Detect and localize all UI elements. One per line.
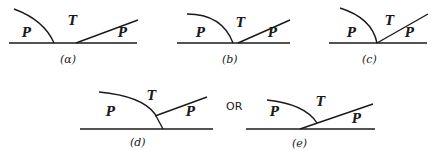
region-label-left-d: P — [105, 105, 116, 119]
right-boundary-line-d — [155, 97, 207, 116]
panel-e: P T P (e) — [246, 95, 375, 150]
or-connector: OR — [226, 100, 243, 113]
region-label-middle-c: T — [385, 14, 395, 28]
left-boundary-curve-b — [187, 14, 233, 43]
right-boundary-line-a — [76, 20, 138, 43]
phase-boundary-diagram: P T P (α) P T P (b) P T P (c) P T P (d) … — [0, 0, 435, 150]
region-label-left-a: P — [21, 26, 32, 40]
region-label-right-b: P — [267, 26, 278, 40]
region-label-left-b: P — [195, 26, 206, 40]
region-label-right-c: P — [404, 26, 415, 40]
region-label-middle-a: T — [68, 14, 78, 28]
region-label-middle-d: T — [147, 89, 157, 103]
caption-b: (b) — [222, 53, 238, 66]
panel-c: P T P (c) — [329, 8, 428, 66]
right-boundary-line-b — [238, 20, 290, 43]
region-label-left-e: P — [269, 105, 280, 119]
caption-e: (e) — [292, 137, 307, 150]
region-label-middle-e: T — [316, 95, 326, 109]
region-label-middle-b: T — [236, 16, 246, 30]
panel-b: P T P (b) — [177, 14, 290, 66]
caption-c: (c) — [362, 53, 377, 66]
region-label-right-a: P — [117, 26, 128, 40]
left-boundary-curve-a — [14, 9, 54, 43]
region-label-left-c: P — [346, 26, 357, 40]
region-label-right-d: P — [185, 105, 196, 119]
region-label-right-e: P — [351, 112, 362, 126]
left-boundary-curve-c — [340, 8, 377, 43]
panel-d: P T P (d) — [80, 89, 213, 149]
caption-a: (α) — [60, 53, 76, 66]
caption-d: (d) — [130, 136, 146, 149]
panel-a: P T P (α) — [9, 9, 138, 66]
